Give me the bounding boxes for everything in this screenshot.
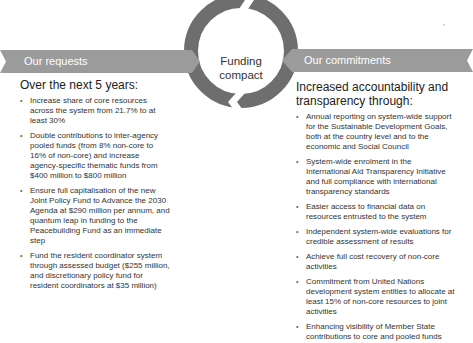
list-item: System-wide enrolment in the Internation… [296, 157, 456, 197]
list-item: Achieve full cost recovery of non-core a… [296, 252, 456, 272]
list-item: Fund the resident coordinator system thr… [20, 251, 170, 291]
our-commitments-banner: Our commitments [282, 49, 473, 72]
list-item: Independent system-wide evaluations for … [296, 227, 456, 247]
our-commitments-label: Our commitments [282, 54, 391, 66]
center-label-line1: Funding [205, 54, 277, 68]
our-requests-banner: Our requests [0, 50, 200, 73]
list-item: Annual reporting on system-wide support … [296, 112, 456, 152]
requests-list: Increase share of core resources across … [20, 96, 170, 291]
decorative-dot [443, 24, 445, 26]
commitments-heading-line1: Increased accountability and [296, 80, 456, 94]
list-item: Increase share of core resources across … [20, 96, 170, 126]
list-item: Commitment from United Nations developme… [296, 277, 456, 317]
requests-column: Over the next 5 years: Increase share of… [20, 78, 170, 296]
commitments-column: Increased accountability and transparenc… [296, 80, 456, 343]
commitments-heading: Increased accountability and transparenc… [296, 80, 456, 108]
list-item: Ensure full capitalisation of the new Jo… [20, 186, 170, 246]
list-item: Enhancing visibility of Member State con… [296, 322, 456, 342]
list-item: Easier access to financial data on resou… [296, 202, 456, 222]
commitments-heading-line2: transparency through: [296, 94, 456, 108]
commitments-list: Annual reporting on system-wide support … [296, 112, 456, 342]
our-requests-label: Our requests [0, 55, 88, 67]
center-label-line2: compact [205, 68, 277, 82]
requests-heading: Over the next 5 years: [20, 78, 170, 92]
funding-compact-label: Funding compact [205, 54, 277, 82]
list-item: Double contributions to inter-agency poo… [20, 131, 170, 181]
